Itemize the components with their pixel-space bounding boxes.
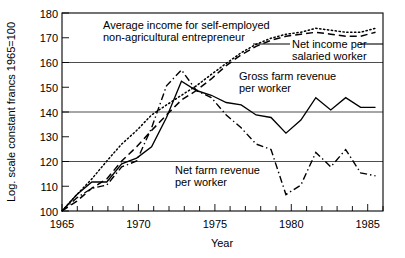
y-axis-title: Log. scale constant francs 1965=100 <box>5 22 17 202</box>
x-tick-label: 1985 <box>355 218 379 230</box>
x-tick-label: 1980 <box>279 218 303 230</box>
ann-salaried-line2: salaried worker <box>292 50 367 62</box>
y-tick-label: 170 <box>40 32 58 44</box>
ann-self-employed-line2: non-agricultural entrepreneur <box>103 31 245 43</box>
ann-net-farm-line2: per worker <box>175 176 227 188</box>
y-tick-label: 180 <box>40 8 58 20</box>
y-tick-label: 160 <box>40 57 58 69</box>
y-tick-label: 150 <box>40 82 58 94</box>
line-chart: 100 110 120 130 140 150 160 170 180 Log.… <box>0 0 405 258</box>
chart-figure: 100 110 120 130 140 150 160 170 180 Log.… <box>0 0 405 258</box>
ann-gross-farm-line1: Gross farm revenue <box>239 70 336 82</box>
y-tick-label: 130 <box>40 131 58 143</box>
x-axis-title: Year <box>211 237 234 249</box>
ann-gross-farm-line2: per worker <box>239 82 291 94</box>
y-tick-label: 100 <box>40 206 58 218</box>
y-axis-tick-labels: 100 110 120 130 140 150 160 170 180 <box>40 8 58 218</box>
x-tick-label: 1970 <box>126 218 150 230</box>
ann-self-employed-line1: Average income for self-employed <box>103 19 270 31</box>
ann-net-farm-line1: Net farm revenue <box>175 164 260 176</box>
x-tick-label: 1975 <box>203 218 227 230</box>
y-tick-label: 110 <box>40 181 58 193</box>
y-tick-label: 140 <box>40 107 58 119</box>
ann-salaried-line1: Net income per <box>292 38 367 50</box>
ann-self-employed: Average income for self-employed non-agr… <box>103 19 270 43</box>
x-tick-label: 1965 <box>50 218 74 230</box>
x-axis-tick-labels: 1965 1970 1975 1980 1985 <box>50 218 380 230</box>
y-tick-label: 120 <box>40 156 58 168</box>
